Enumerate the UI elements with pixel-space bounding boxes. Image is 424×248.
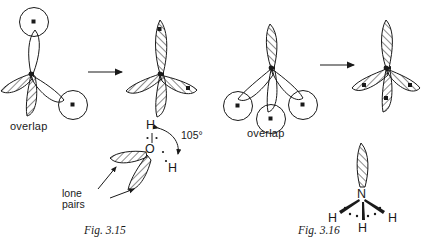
atom-label-nitrogen-ammonia: N [357,188,366,201]
overlap-label-water: overlap [10,121,47,132]
diagram-canvas: overlap H O H 105° lone pairs Fig. 3.15 … [0,0,424,248]
lone-pairs-leader-lines [98,167,134,198]
ammonia-before-orbitals [224,24,318,134]
atom-label-oxygen-water: O [145,143,155,156]
water-before-orbitals [1,8,88,120]
atom-label-hydrogen-bottom-ammonia: H [358,222,367,235]
orbital-artwork [0,0,424,248]
figure-caption-3-16: Fig. 3.16 [298,225,340,237]
bond-angle-label-water: 105° [181,130,203,141]
ammonia-after-orbitals [352,20,420,112]
figure-caption-3-15: Fig. 3.15 [84,225,126,237]
atom-label-hydrogen-top-water: H [146,119,155,132]
atom-label-hydrogen-right-water: H [168,162,177,175]
overlap-label-ammonia: overlap [247,128,284,139]
water-molecule [110,128,178,190]
water-after-orbitals [126,20,197,117]
ammonia-molecule [339,143,385,220]
atom-label-hydrogen-right-ammonia: H [388,212,397,225]
atom-label-hydrogen-left-ammonia: H [328,212,337,225]
lone-pairs-label: lone pairs [62,188,85,210]
